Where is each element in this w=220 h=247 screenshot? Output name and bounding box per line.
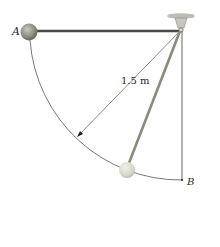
label-length: 1.5 m xyxy=(121,75,150,86)
point-b-marker xyxy=(181,179,183,181)
ball-a xyxy=(21,24,38,41)
ball-swing xyxy=(119,162,135,178)
swing-arc xyxy=(30,40,182,180)
pendulum-diagram: A B 1.5 m xyxy=(0,0,220,247)
label-a: A xyxy=(11,25,20,38)
rod-swing xyxy=(129,31,180,163)
ceiling-support xyxy=(167,13,195,32)
label-b: B xyxy=(186,176,194,187)
